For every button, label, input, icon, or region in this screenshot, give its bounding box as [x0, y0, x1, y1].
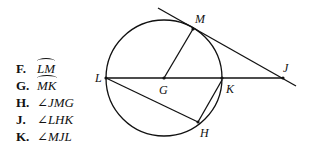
chord-kh — [198, 80, 222, 122]
point-k-dot — [220, 76, 223, 79]
point-g-dot — [162, 76, 165, 79]
label-k: K — [225, 82, 235, 96]
radius-gm — [164, 29, 193, 78]
circle-diagram: M L G K J H — [0, 0, 312, 146]
label-j: J — [283, 61, 289, 75]
label-l: L — [94, 71, 102, 85]
label-m: M — [194, 12, 206, 26]
point-l-dot — [104, 76, 107, 79]
point-j-dot — [281, 76, 284, 79]
point-m-dot — [191, 27, 194, 30]
label-g: G — [159, 83, 168, 97]
point-h-dot — [196, 120, 199, 123]
tangent-line-mj — [158, 8, 296, 86]
label-h: H — [199, 126, 210, 140]
